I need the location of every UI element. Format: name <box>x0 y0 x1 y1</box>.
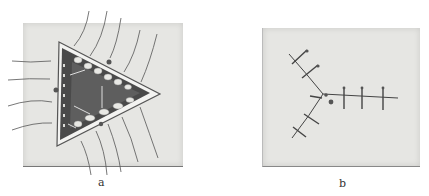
stitches-b <box>292 50 383 137</box>
wound-triangle-a <box>54 42 161 146</box>
figure-illustration <box>0 0 429 196</box>
panel-label-a: a <box>98 176 105 189</box>
panel-label-b: b <box>339 177 346 190</box>
